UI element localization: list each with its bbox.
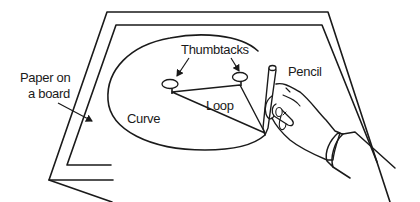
label-thumbtacks: Thumbtacks	[181, 42, 250, 57]
label-pencil: Pencil	[288, 64, 322, 79]
pencil-icon	[263, 66, 276, 136]
arrow-thumbtack-left	[177, 58, 189, 76]
label-curve: Curve	[127, 111, 160, 126]
label-loop: Loop	[206, 98, 234, 113]
label-paper-line2: a board	[28, 86, 70, 101]
arrow-thumbtack-right	[231, 58, 239, 71]
thumbtack-right	[233, 73, 248, 87]
label-paper-line1: Paper on	[20, 70, 70, 85]
ellipse-drawing-diagram: Paper on a board Curve Thumbtacks Loop P…	[0, 0, 420, 202]
hand-icon	[265, 84, 395, 178]
